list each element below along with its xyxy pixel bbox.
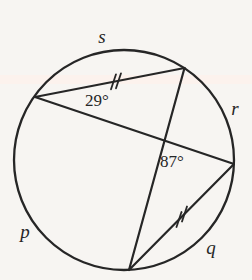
angle-label-87: 87°: [160, 152, 184, 171]
geometry-figure: s r p q 29° 87°: [0, 0, 252, 280]
arc-label-q: q: [206, 237, 216, 258]
arc-label-p: p: [18, 221, 30, 242]
arc-label-s: s: [98, 26, 105, 47]
circle-diagram-svg: s r p q 29° 87°: [0, 0, 252, 280]
angle-label-29: 29°: [85, 91, 109, 110]
arc-label-r: r: [231, 98, 239, 119]
